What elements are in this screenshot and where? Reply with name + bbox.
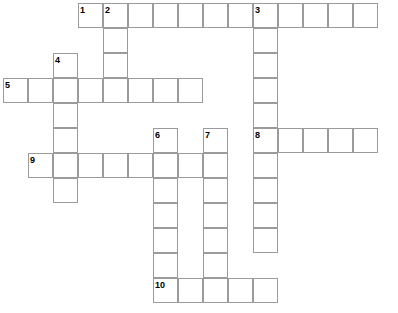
- crossword-cell[interactable]: [203, 253, 228, 278]
- crossword-cell[interactable]: [278, 3, 303, 28]
- crossword-cell[interactable]: [178, 78, 203, 103]
- crossword-cell[interactable]: [103, 28, 128, 53]
- crossword-grid[interactable]: 12345678910: [0, 0, 398, 313]
- crossword-cell[interactable]: [53, 153, 78, 178]
- crossword-cell[interactable]: [253, 3, 278, 28]
- crossword-cell[interactable]: [303, 128, 328, 153]
- crossword-cell[interactable]: [278, 128, 303, 153]
- crossword-cell[interactable]: [103, 78, 128, 103]
- crossword-cell[interactable]: [253, 203, 278, 228]
- crossword-cell[interactable]: [253, 228, 278, 253]
- crossword-cell[interactable]: [28, 153, 53, 178]
- crossword-cell[interactable]: [53, 78, 78, 103]
- crossword-cell[interactable]: [178, 3, 203, 28]
- crossword-cell[interactable]: [178, 153, 203, 178]
- crossword-cell[interactable]: [78, 78, 103, 103]
- crossword-cell[interactable]: [203, 203, 228, 228]
- crossword-cell[interactable]: [203, 153, 228, 178]
- crossword-cell[interactable]: [253, 28, 278, 53]
- crossword-cell[interactable]: [53, 53, 78, 78]
- crossword-cell[interactable]: [153, 128, 178, 153]
- crossword-cell[interactable]: [128, 153, 153, 178]
- crossword-cell[interactable]: [153, 78, 178, 103]
- crossword-cell[interactable]: [328, 128, 353, 153]
- crossword-cell[interactable]: [3, 78, 28, 103]
- crossword-cell[interactable]: [103, 53, 128, 78]
- crossword-cell[interactable]: [253, 103, 278, 128]
- crossword-cell[interactable]: [153, 253, 178, 278]
- crossword-cell[interactable]: [178, 278, 203, 303]
- crossword-cell[interactable]: [303, 3, 328, 28]
- crossword-cell[interactable]: [228, 3, 253, 28]
- crossword-cell[interactable]: [253, 78, 278, 103]
- crossword-cell[interactable]: [128, 78, 153, 103]
- crossword-cell[interactable]: [153, 153, 178, 178]
- crossword-cell[interactable]: [203, 128, 228, 153]
- crossword-cell[interactable]: [78, 153, 103, 178]
- crossword-cell[interactable]: [353, 128, 378, 153]
- crossword-cell[interactable]: [253, 128, 278, 153]
- crossword-cell[interactable]: [128, 3, 153, 28]
- crossword-cell[interactable]: [78, 3, 103, 28]
- crossword-cell[interactable]: [153, 178, 178, 203]
- crossword-cell[interactable]: [103, 3, 128, 28]
- crossword-cell[interactable]: [153, 203, 178, 228]
- crossword-cell[interactable]: [253, 53, 278, 78]
- crossword-cell[interactable]: [53, 178, 78, 203]
- crossword-cell[interactable]: [203, 278, 228, 303]
- crossword-cell[interactable]: [253, 153, 278, 178]
- crossword-cell[interactable]: [153, 228, 178, 253]
- crossword-cell[interactable]: [353, 3, 378, 28]
- crossword-cell[interactable]: [103, 153, 128, 178]
- crossword-cell[interactable]: [203, 3, 228, 28]
- crossword-cell[interactable]: [253, 278, 278, 303]
- crossword-cell[interactable]: [153, 278, 178, 303]
- crossword-cell[interactable]: [203, 178, 228, 203]
- crossword-cell[interactable]: [28, 78, 53, 103]
- crossword-cell[interactable]: [203, 228, 228, 253]
- crossword-cell[interactable]: [253, 178, 278, 203]
- crossword-cell[interactable]: [153, 3, 178, 28]
- crossword-cell[interactable]: [228, 278, 253, 303]
- crossword-cell[interactable]: [53, 128, 78, 153]
- crossword-cell[interactable]: [53, 103, 78, 128]
- crossword-cell[interactable]: [328, 3, 353, 28]
